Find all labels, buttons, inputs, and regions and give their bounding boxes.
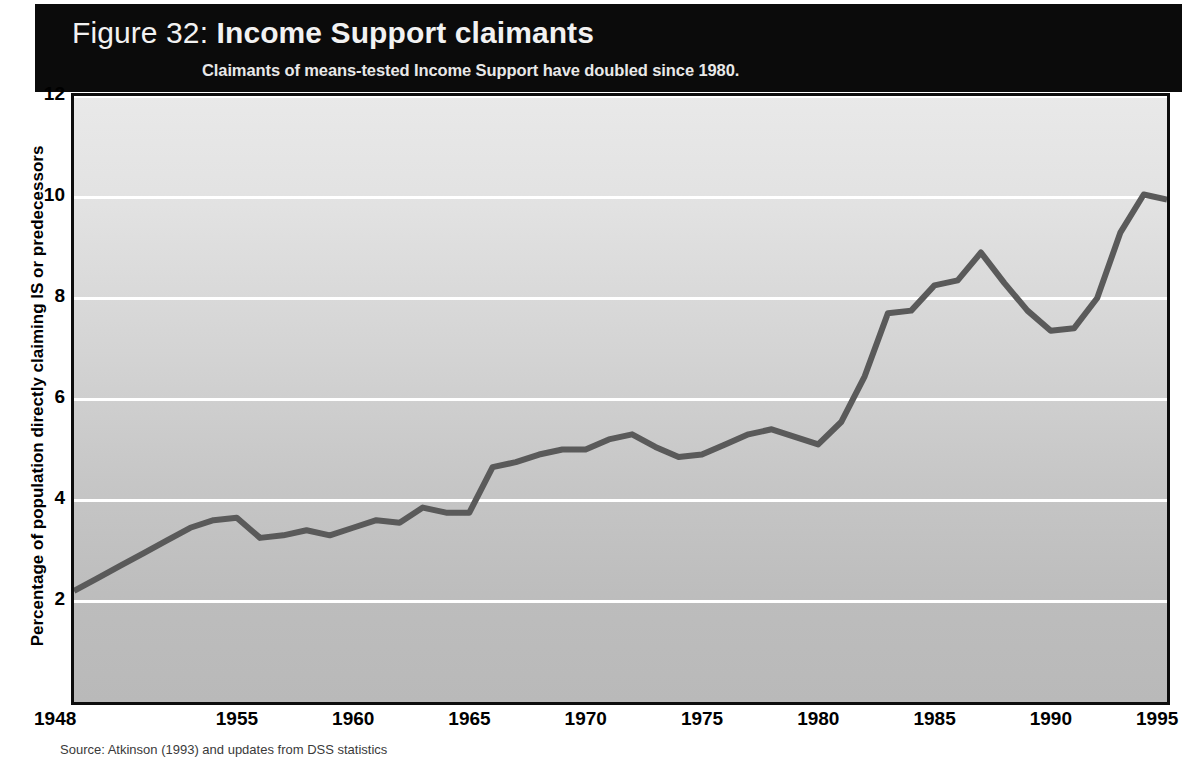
x-tick-label: 1955 — [216, 709, 258, 728]
x-tick-label: 1948 — [34, 709, 76, 728]
y-tick-label: 4 — [25, 488, 65, 507]
page-title: Income Support claimants — [217, 16, 594, 49]
y-axis-ticks: 24681012 — [20, 93, 65, 705]
y-tick-label: 6 — [25, 387, 65, 406]
series-line-chart — [74, 96, 1167, 702]
x-tick-label: 1975 — [681, 709, 723, 728]
series-polyline — [74, 194, 1167, 590]
title-banner: Figure 32: Income Support claimants Clai… — [35, 4, 1182, 92]
y-tick-label: 10 — [25, 185, 65, 204]
source-note: Source: Atkinson (1993) and updates from… — [60, 742, 387, 757]
x-tick-label: 1990 — [1030, 709, 1072, 728]
y-tick-label: 12 — [25, 84, 65, 103]
x-tick-label: 1980 — [797, 709, 839, 728]
plot-area — [71, 93, 1170, 705]
figure-title-line: Figure 32: Income Support claimants — [72, 16, 594, 50]
y-tick-label: 2 — [25, 589, 65, 608]
x-tick-label: 1960 — [332, 709, 374, 728]
x-tick-label: 1965 — [448, 709, 490, 728]
x-tick-label: 1970 — [565, 709, 607, 728]
x-tick-label: 1995 — [1136, 709, 1178, 728]
figure-subtitle: Claimants of means-tested Income Support… — [202, 61, 739, 80]
x-tick-label: 1985 — [913, 709, 955, 728]
figure-number: Figure 32: — [72, 16, 208, 49]
y-tick-label: 8 — [25, 286, 65, 305]
x-axis-ticks: 1948195519601965197019751980198519901995 — [0, 709, 1182, 739]
